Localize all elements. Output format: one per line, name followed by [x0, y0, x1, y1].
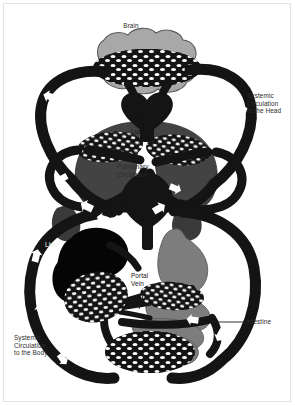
vessel-lower-left-into-bed: [60, 360, 114, 378]
label-pulmonary-circulation: Pulmonary Circulation: [117, 163, 148, 178]
arrow-body-right-down: [226, 274, 241, 290]
label-brain: Brain: [113, 22, 149, 30]
label-portal-vein: Portal Vein: [131, 272, 148, 287]
label-intestine: Intestine: [246, 318, 271, 326]
label-systemic-circulation-head: Systemic Circulation to the Head: [247, 92, 281, 115]
vessel-portal-confluence: [120, 312, 150, 318]
label-systemic-circulation-body: Systemic Circulation to the Body: [14, 334, 47, 357]
label-lungs: Lungs: [131, 128, 149, 136]
label-liver: Liver: [45, 241, 59, 249]
diagram-page: Brain Systemic Circulation to the Head L…: [0, 0, 295, 406]
